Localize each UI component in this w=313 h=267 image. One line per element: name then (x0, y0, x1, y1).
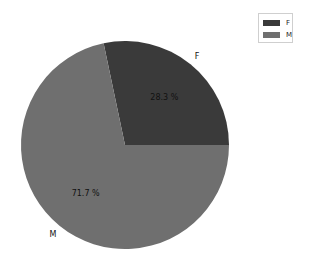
pct-label-f: 28.3 % (150, 93, 178, 102)
legend-label-m: M (286, 31, 292, 39)
category-label-f: F (195, 52, 200, 61)
legend: F M (258, 13, 293, 43)
legend-item-m: M (263, 31, 292, 39)
legend-swatch-m (263, 32, 280, 38)
legend-label-f: F (286, 19, 290, 27)
legend-swatch-f (263, 20, 280, 26)
legend-item-f: F (263, 19, 290, 27)
category-label-m: M (49, 230, 56, 239)
pct-label-m: 71.7 % (72, 189, 100, 198)
